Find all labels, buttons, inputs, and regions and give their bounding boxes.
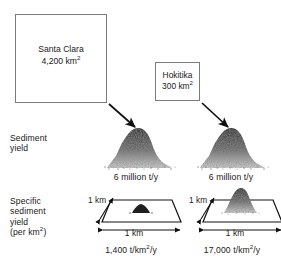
row-label-sediment-yield-line2: yield (10, 143, 47, 153)
sediment-yield-value-hokitika: 6 million t/y (209, 172, 253, 182)
specific-yield-value-santa-clara: 1,400 t/km2/y (105, 245, 157, 255)
sediment-pile-santa-clara (104, 128, 175, 170)
sediment-pile-hokitika (197, 128, 268, 170)
catchment-label-hokitika: Hokitika 300 km2 (156, 70, 199, 93)
unit-cell-depth-label-santa-clara: 1 km (88, 195, 106, 205)
unit-cell-hokitika (201, 188, 281, 230)
row-label-specific-sediment-yield: Specific sediment yield (per km2) (10, 196, 46, 238)
arrow-santa-clara-to-pile (109, 104, 135, 127)
area-exponent-hokitika: 2 (190, 81, 193, 87)
row-label-sediment-yield: Sediment yield (10, 133, 47, 154)
catchment-name-santa-clara: Santa Clara (16, 44, 106, 56)
unit-cell-santa-clara (100, 198, 181, 230)
row-label-specific-line1: Specific (10, 196, 46, 206)
unit-cell-width-label-hokitika: 1 km (226, 228, 244, 238)
row-label-sediment-yield-line1: Sediment (10, 133, 47, 143)
specific-yield-value-hokitika: 17,000 t/km2/y (204, 245, 260, 255)
row-label-specific-line4: (per km2) (10, 227, 46, 237)
unit-cell-depth-label-hokitika: 1 km (189, 195, 207, 205)
row-label-specific-line2: sediment (10, 206, 46, 216)
area-exponent-santa-clara: 2 (77, 54, 80, 61)
catchment-box-santa-clara: Santa Clara 4,200 km2 (15, 14, 107, 103)
arrow-hokitika-to-pile (202, 103, 228, 127)
unit-cell-width-label-santa-clara: 1 km (125, 228, 143, 238)
sediment-yield-value-santa-clara: 6 million t/y (114, 172, 158, 182)
catchment-area-hokitika: 300 km2 (156, 81, 199, 92)
catchment-area-santa-clara: 4,200 km2 (16, 56, 106, 68)
diagram-canvas: Santa Clara 4,200 km2 Hokitika 300 km2 S… (0, 0, 281, 267)
catchment-label-santa-clara: Santa Clara 4,200 km2 (16, 44, 106, 67)
catchment-box-hokitika: Hokitika 300 km2 (155, 62, 200, 101)
